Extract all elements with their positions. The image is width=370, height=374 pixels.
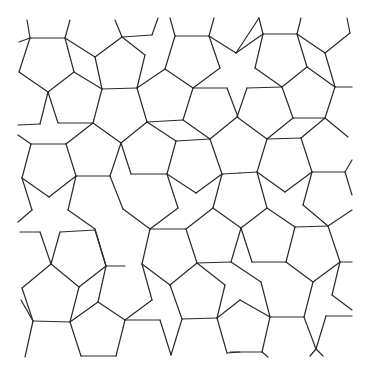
tile-edge: [316, 349, 323, 356]
tile-edge: [18, 135, 31, 144]
tile-edge: [19, 38, 30, 72]
tile-edge: [262, 352, 268, 357]
tile-edge: [66, 123, 93, 144]
tile-edge: [51, 264, 79, 287]
tile-edge: [267, 208, 295, 227]
tile-edge: [121, 143, 131, 174]
tile-edge: [27, 20, 30, 38]
tile-edge: [121, 122, 147, 143]
tile-edge: [297, 34, 307, 67]
tile-edge: [170, 263, 197, 285]
tile-edge: [25, 321, 33, 357]
tile-edge: [60, 230, 95, 232]
tile-edge: [347, 18, 350, 33]
tile-edge: [95, 229, 106, 266]
tile-edge: [182, 318, 217, 319]
tile-edge: [193, 68, 220, 88]
tile-edge: [197, 263, 225, 285]
tile-edge: [328, 210, 352, 226]
tile-edge: [255, 68, 282, 87]
tile-edge: [142, 264, 152, 300]
tile-edge: [167, 141, 176, 174]
tile-edge: [70, 322, 81, 356]
tile-edge: [116, 320, 125, 356]
tile-edge: [241, 228, 252, 262]
tile-edge: [310, 349, 316, 356]
tile-edge: [295, 226, 328, 227]
tile-edge: [286, 262, 313, 282]
tile-edge: [123, 209, 150, 229]
tile-edge: [325, 118, 348, 137]
tile-edge: [261, 282, 270, 317]
tile-edge: [98, 302, 125, 320]
tile-edge: [142, 229, 150, 264]
tile-edge: [165, 69, 193, 88]
tile-edge: [286, 227, 295, 262]
tile-edge: [240, 300, 270, 317]
tile-edge: [66, 144, 76, 176]
tile-edge: [176, 139, 210, 141]
tile-edge: [152, 18, 158, 35]
tile-edge: [170, 18, 175, 36]
tile-edge: [304, 282, 313, 317]
tile-edge: [167, 174, 196, 193]
tile-edge: [209, 18, 214, 36]
tile-edge: [22, 178, 32, 210]
tile-edge: [237, 88, 247, 117]
tile-edge: [345, 172, 352, 195]
tile-edge: [231, 262, 261, 282]
tile-edge: [48, 72, 74, 92]
tile-edge: [160, 320, 171, 355]
tile-edge: [267, 118, 293, 139]
tile-edge: [240, 172, 257, 173]
tile-edge: [19, 72, 48, 92]
tile-edge: [102, 88, 137, 89]
tile-edge: [65, 20, 70, 38]
tile-edge: [282, 87, 293, 118]
tile-edge: [183, 88, 193, 120]
tile-edge: [68, 210, 95, 229]
tile-edge: [137, 88, 147, 122]
tile-edge: [186, 229, 197, 263]
tile-edge: [95, 37, 122, 57]
tile-edge: [210, 117, 237, 139]
tile-edge: [110, 176, 123, 209]
tile-edge: [18, 210, 32, 222]
tile-edge: [307, 67, 335, 87]
tile-edge: [165, 36, 175, 69]
tile-edge: [74, 72, 102, 89]
tile-edge: [122, 37, 145, 55]
tile-edge: [247, 87, 282, 88]
tile-edge: [197, 262, 231, 263]
tile-edge: [93, 89, 102, 123]
tile-edge: [297, 34, 325, 53]
tile-edge: [213, 208, 241, 228]
tile-edge: [231, 228, 241, 262]
tile-edge: [93, 123, 121, 143]
tile-edge: [237, 117, 267, 139]
tile-edge: [115, 20, 122, 37]
tile-edge: [301, 138, 312, 172]
tile-edge: [222, 173, 240, 174]
tile-edge: [40, 92, 48, 124]
tile-edge: [236, 18, 259, 53]
tile-edge: [122, 35, 152, 37]
tile-edge: [22, 264, 51, 288]
tile-edge: [282, 67, 307, 87]
tile-edge: [304, 317, 316, 349]
tile-edge: [316, 316, 326, 349]
tile-edge: [259, 18, 263, 34]
tile-edge: [183, 120, 210, 139]
tile-edge: [332, 295, 352, 310]
tile-edge: [325, 33, 350, 53]
tile-edge: [210, 139, 222, 174]
tile-edge: [150, 208, 178, 229]
tile-edge: [167, 174, 178, 208]
tile-edge: [209, 36, 236, 53]
tile-edge: [241, 208, 267, 228]
tile-edge: [171, 319, 182, 355]
tile-edge: [51, 232, 60, 264]
tile-edge: [301, 118, 325, 138]
tile-edge: [142, 264, 170, 285]
tile-edge: [40, 232, 51, 264]
